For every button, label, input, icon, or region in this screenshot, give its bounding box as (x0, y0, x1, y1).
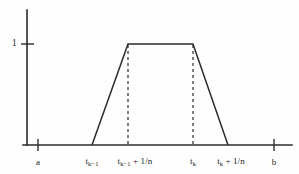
x-axis-label-t-k-plus-1-over-n: tk + 1/n (217, 157, 245, 166)
plot-svg (0, 0, 299, 174)
x-axis-label-t-k-minus-1: tk−1 (85, 157, 98, 166)
t-subscript: k−1 (120, 160, 130, 167)
x-axis-label-t-k: tk (190, 157, 196, 166)
t-subscript: k (220, 160, 223, 167)
x-axis-label-b: b (272, 158, 277, 167)
trapezoid-curve (92, 44, 228, 145)
y-axis-label-one: 1 (12, 39, 17, 49)
x-axis-label-t-k-minus-1-plus-1-over-n: tk−1 + 1/n (118, 157, 153, 166)
x-axis-label-a: a (36, 158, 40, 167)
figure-container: 1 a tk−1 tk−1 + 1/n tk tk + 1/n b (0, 0, 299, 174)
t-subscript: k−1 (88, 160, 98, 167)
t-tail: + 1/n (131, 156, 153, 166)
t-subscript: k (193, 160, 196, 167)
t-tail: + 1/n (223, 156, 245, 166)
